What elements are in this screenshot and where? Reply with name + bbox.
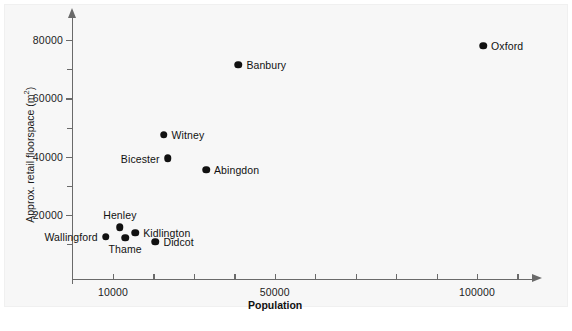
data-point-henley[interactable]: [116, 224, 124, 232]
x-tick-60000: [315, 274, 316, 279]
y-tick-50000: [67, 128, 72, 129]
x-tick-80000: [396, 274, 397, 279]
x-tick-10000: [113, 274, 114, 280]
data-point-thame[interactable]: [121, 234, 129, 242]
y-tick-10000: [67, 244, 72, 245]
scatter-plot: 20000400006000080000 1000050000100000 Ox…: [0, 0, 572, 331]
data-point-wallingford[interactable]: [102, 233, 110, 241]
data-point-label-didcot: Didcot: [163, 236, 193, 248]
figure-container: 20000400006000080000 1000050000100000 Ox…: [0, 0, 572, 331]
y-axis-title: Approx. retail floorspace (m2): [22, 70, 36, 240]
data-point-didcot[interactable]: [152, 238, 160, 246]
data-point-label-wallingford: Wallingford: [44, 231, 97, 243]
y-tick-20000: [66, 215, 72, 216]
x-tick-50000: [275, 274, 276, 280]
x-axis-line: [72, 279, 534, 280]
data-point-banbury[interactable]: [235, 61, 243, 69]
x-tick-70000: [356, 274, 357, 279]
y-tick-70000: [67, 69, 72, 70]
y-axis-arrowhead: [68, 8, 76, 18]
data-point-label-witney: Witney: [172, 129, 205, 141]
data-point-bicester[interactable]: [164, 154, 172, 162]
data-point-label-bicester: Bicester: [121, 153, 160, 165]
data-point-abingdon[interactable]: [202, 166, 210, 174]
y-tick-30000: [67, 186, 72, 187]
x-tick-30000: [194, 274, 195, 279]
y-axis-title-superscript: 2: [22, 90, 31, 94]
y-axis-title-text: Approx. retail floorspace (m: [24, 94, 36, 222]
x-axis-arrowhead: [532, 274, 542, 282]
y-tick-80000: [66, 40, 72, 41]
x-axis-title: Population: [248, 299, 302, 311]
x-tick-label-100000: 100000: [459, 286, 495, 298]
data-point-label-banbury: Banbury: [246, 59, 286, 71]
data-point-label-abingdon: Abingdon: [214, 164, 259, 176]
y-tick-40000: [66, 157, 72, 158]
y-tick-label-80000: 80000: [1, 34, 63, 46]
x-tick-40000: [234, 274, 235, 279]
data-point-oxford[interactable]: [479, 42, 487, 50]
data-point-kidlington[interactable]: [131, 229, 139, 237]
x-tick-20000: [153, 274, 154, 279]
x-tick-label-10000: 10000: [98, 286, 128, 298]
x-tick-110000: [517, 274, 518, 279]
data-point-label-thame: Thame: [109, 243, 142, 255]
data-point-witney[interactable]: [160, 131, 168, 139]
data-point-label-oxford: Oxford: [491, 40, 523, 52]
data-point-label-henley: Henley: [103, 209, 136, 221]
x-tick-100000: [477, 274, 478, 280]
y-tick-60000: [66, 98, 72, 99]
x-tick-label-50000: 50000: [260, 286, 290, 298]
y-axis-line: [72, 16, 73, 284]
x-tick-90000: [437, 274, 438, 279]
y-axis-title-paren: ): [24, 87, 36, 91]
